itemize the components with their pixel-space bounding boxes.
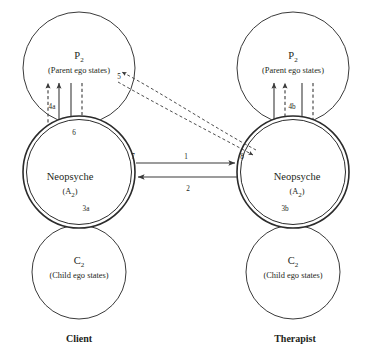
ego-state-transaction-diagram: P2 (Parent ego states) Neopsyche (A2) C2… bbox=[0, 0, 372, 360]
client-child-caption: (Child ego states) bbox=[49, 271, 108, 280]
marker-1: 1 bbox=[184, 153, 188, 161]
therapist-role-label: Therapist bbox=[274, 333, 316, 344]
marker-4a: 4a bbox=[49, 103, 57, 111]
marker-2: 2 bbox=[186, 185, 190, 193]
marker-8: 8 bbox=[240, 153, 244, 161]
transference-curve-upper-5 bbox=[122, 72, 256, 150]
transference-curve-lower-5 bbox=[118, 82, 253, 155]
client-role-label: Client bbox=[66, 333, 93, 344]
diagram-canvas: P2 (Parent ego states) Neopsyche (A2) C2… bbox=[0, 0, 372, 360]
marker-3a: 3a bbox=[83, 205, 91, 213]
therapist-parent-caption: (Parent ego states) bbox=[262, 66, 324, 75]
marker-7: 7 bbox=[131, 153, 135, 161]
marker-3b: 3b bbox=[281, 205, 289, 213]
marker-5: 5 bbox=[117, 73, 121, 81]
therapist-neopsyche-label: Neopsyche bbox=[274, 171, 321, 182]
client-parent-caption: (Parent ego states) bbox=[48, 66, 110, 75]
marker-6: 6 bbox=[72, 129, 76, 137]
marker-4b: 4b bbox=[288, 103, 296, 111]
client-neopsyche-label: Neopsyche bbox=[47, 171, 94, 182]
therapist-child-caption: (Child ego states) bbox=[263, 271, 322, 280]
